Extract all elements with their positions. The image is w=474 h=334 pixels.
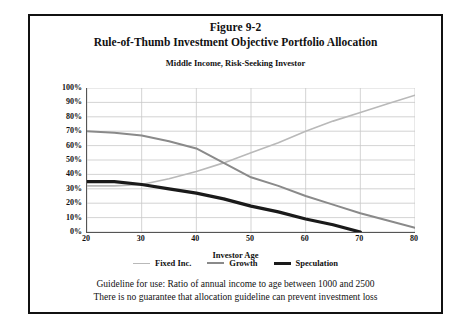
footer-line-2: There is no guarantee that allocation gu…	[30, 291, 441, 304]
figure-subtitle: Middle Income, Risk-Seeking Investor	[30, 57, 441, 69]
chart-lines-svg	[87, 88, 415, 232]
legend-item[interactable]: Growth	[207, 258, 257, 268]
y-axis-tick: 50%	[66, 156, 82, 164]
figure-frame: Figure 9-2 Rule-of-Thumb Investment Obje…	[28, 14, 443, 314]
footer-line-1: Guideline for use: Ratio of annual incom…	[30, 278, 441, 291]
legend-item[interactable]: Speculation	[274, 258, 339, 268]
x-axis-tick: 60	[301, 234, 309, 244]
y-axis-tick: 100%	[62, 84, 82, 92]
chart-plot-area	[86, 88, 415, 233]
x-axis-tick-labels: 20304050607080	[86, 234, 414, 246]
figure-title: Rule-of-Thumb Investment Objective Portf…	[30, 35, 441, 50]
figure-footer: Guideline for use: Ratio of annual incom…	[30, 278, 441, 304]
figure-number: Figure 9-2	[30, 21, 441, 34]
legend-swatch-icon	[133, 263, 150, 264]
y-axis-tick: 60%	[66, 142, 82, 150]
y-axis-tick: 70%	[66, 127, 82, 135]
legend-label: Growth	[229, 258, 257, 268]
chart-legend: Fixed Inc.GrowthSpeculation	[30, 258, 441, 268]
legend-swatch-icon	[274, 262, 291, 265]
legend-swatch-icon	[207, 262, 224, 264]
y-axis-tick: 20%	[66, 199, 82, 207]
title-block: Figure 9-2 Rule-of-Thumb Investment Obje…	[30, 16, 441, 69]
x-axis-tick: 40	[191, 234, 199, 244]
x-axis-tick: 50	[246, 234, 254, 244]
y-axis-tick: 90%	[66, 98, 82, 106]
chart-plot-wrapper: 0%10%20%30%40%50%60%70%80%90%100% 203040…	[30, 88, 441, 246]
legend-item[interactable]: Fixed Inc.	[133, 258, 191, 268]
legend-label: Speculation	[296, 258, 339, 268]
y-axis-tick: 40%	[66, 170, 82, 178]
y-axis-tick: 30%	[66, 185, 82, 193]
x-axis-tick: 80	[410, 234, 418, 244]
x-axis-tick: 20	[82, 234, 90, 244]
x-axis-tick: 70	[355, 234, 363, 244]
legend-label: Fixed Inc.	[155, 258, 191, 268]
x-axis-tick: 30	[137, 234, 145, 244]
y-axis-tick: 0%	[70, 228, 82, 236]
y-axis-tick: 10%	[66, 214, 82, 222]
y-axis-tick: 80%	[66, 113, 82, 121]
y-axis-tick-labels: 0%10%20%30%40%50%60%70%80%90%100%	[48, 88, 82, 232]
